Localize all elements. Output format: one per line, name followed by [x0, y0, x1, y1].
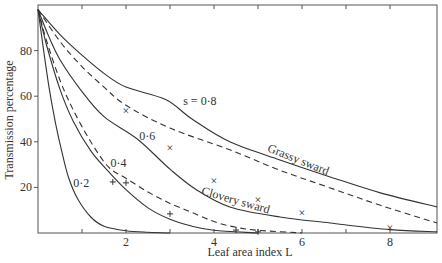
x-tick-label: 8: [387, 235, 393, 249]
y-tick-label: 20: [20, 180, 32, 194]
x-tick-label: 6: [299, 235, 305, 249]
curve-grassy-sward: [38, 10, 437, 223]
clovery-plus-marker: [110, 179, 116, 185]
curve-label: 0·4: [111, 156, 127, 170]
curve-label: 0·6: [139, 129, 155, 143]
grassy-x-marker: ×: [299, 206, 306, 220]
curve-label: s = 0·8: [183, 94, 216, 108]
curve-s-0-8: [38, 10, 437, 207]
y-tick-label: 60: [20, 89, 32, 103]
y-tick-label: 40: [20, 135, 32, 149]
curve-0-2: [38, 10, 170, 233]
clovery-plus-marker: [255, 229, 261, 235]
data-markers: ××××××: [110, 104, 394, 235]
grassy-x-marker: ×: [387, 221, 394, 235]
y-axis-label: Transmission percentage: [2, 60, 16, 179]
y-tick-label: 80: [20, 44, 32, 58]
x-axis-label: Leaf area index L: [208, 245, 293, 259]
x-tick-label: 2: [123, 235, 129, 249]
curve-labels: s = 0·80·60·40·2Grassy swardClovery swar…: [73, 94, 331, 216]
grassy-x-marker: ×: [167, 141, 174, 155]
curve-label: Grassy sward: [266, 141, 332, 178]
curve-label: Clovery sward: [200, 184, 271, 217]
clovery-plus-marker: [167, 211, 173, 217]
curve-label: 0·2: [73, 176, 89, 190]
clovery-plus-marker: [123, 180, 129, 186]
transmission-chart: 246820406080 ×××××× s = 0·80·60·40·2Gras…: [0, 0, 442, 263]
grassy-x-marker: ×: [123, 104, 130, 118]
